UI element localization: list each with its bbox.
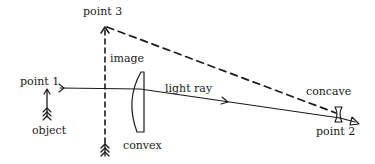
image-fletching-icon [101,144,109,156]
convex-lens [132,72,144,132]
label-point-3: point 3 [83,6,122,17]
concave-lens [335,107,342,122]
label-point-2: point 2 [316,126,355,137]
label-light-ray: light ray [165,83,212,94]
label-point-1: point 1 [20,76,59,87]
ray-end-triangle-icon [350,117,359,125]
virtual-ray [107,27,336,113]
label-concave: concave [306,86,351,97]
image-arrow [101,27,109,156]
label-object: object [32,125,66,136]
label-image: image [110,53,144,64]
object-arrow [43,89,51,120]
label-convex: convex [123,140,162,151]
